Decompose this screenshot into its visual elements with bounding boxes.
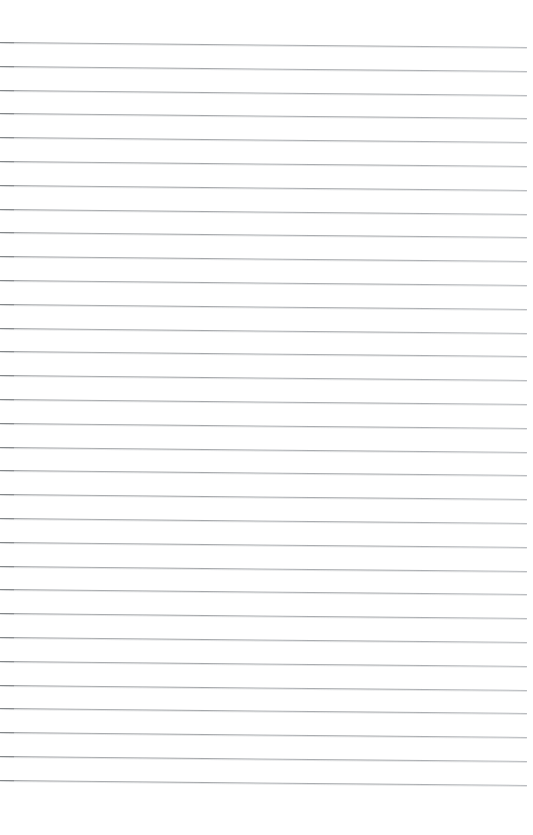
paper-page bbox=[0, 0, 533, 835]
writing-area[interactable] bbox=[0, 0, 533, 835]
